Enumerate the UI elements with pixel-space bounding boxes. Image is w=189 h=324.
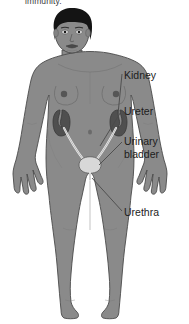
label-urinary-bladder: Urinary bladder bbox=[124, 135, 159, 160]
label-urethra: Urethra bbox=[124, 206, 159, 219]
nipple-right bbox=[113, 91, 119, 97]
label-urinary-bladder-line1: Urinary bbox=[124, 135, 159, 148]
label-kidney-text: Kidney bbox=[124, 69, 156, 82]
diagram-page: immunity. bbox=[0, 0, 189, 324]
pupil-right bbox=[78, 31, 81, 34]
nipple-left bbox=[61, 91, 67, 97]
head bbox=[54, 8, 92, 53]
body-figure bbox=[13, 50, 167, 319]
ear-right bbox=[86, 29, 91, 37]
human-body-illustration bbox=[0, 0, 189, 324]
label-ureter-text: Ureter bbox=[124, 105, 153, 118]
urinary-bladder-organ bbox=[79, 157, 101, 174]
label-ureter: Ureter bbox=[124, 105, 153, 118]
label-kidney: Kidney bbox=[124, 69, 156, 82]
navel bbox=[88, 129, 92, 134]
label-urinary-bladder-line2: bladder bbox=[124, 148, 159, 161]
pupil-left bbox=[64, 31, 67, 34]
kidney-left-organ bbox=[53, 110, 70, 136]
ear-left bbox=[54, 29, 59, 37]
label-urethra-text: Urethra bbox=[124, 206, 159, 219]
